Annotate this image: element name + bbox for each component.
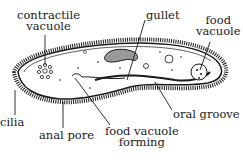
label-food-vacuole-forming: food vacuole forming — [105, 126, 179, 148]
label-contractile-vacuole: contractile vacuole — [17, 10, 80, 32]
label-oral-groove: oral groove — [173, 109, 240, 120]
label-cilia: cilia — [0, 117, 24, 128]
label-food-vacuole: food vacuole — [196, 15, 241, 37]
label-gullet: gullet — [146, 10, 180, 21]
label-anal-pore: anal pore — [39, 130, 94, 141]
paramecium-diagram: contractile vacuole gullet food vacuole … — [0, 0, 243, 161]
